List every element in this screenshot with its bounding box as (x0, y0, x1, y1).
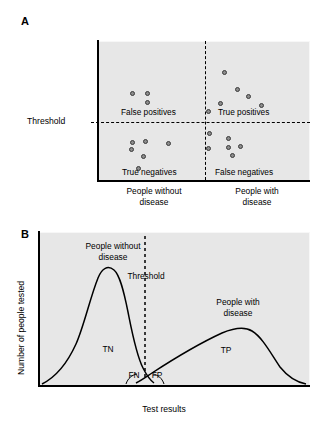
panel-a-x-axis-line (97, 180, 310, 182)
panel-b-y-axis-label: Number of people tested (16, 281, 26, 375)
scatter-dot (129, 147, 134, 152)
scatter-dot (166, 141, 171, 146)
panel-b-label-without-disease: People without disease (58, 241, 168, 262)
panel-b-threshold-label: Threshold (113, 271, 179, 282)
panel-b-plot-area: People without disease Threshold People … (40, 232, 310, 385)
scatter-dot (246, 94, 251, 99)
scatter-dot (206, 146, 211, 151)
scatter-dot (235, 87, 240, 92)
panel-b-letter: B (21, 228, 29, 240)
panel-b-x-axis-line (38, 385, 310, 387)
panel-b-region-tp: TP (216, 345, 236, 356)
scatter-dot (143, 139, 148, 144)
group-without-disease-line1: People without (127, 186, 182, 196)
group-without-disease-line2: disease (140, 197, 169, 207)
without-disease-line2: disease (99, 252, 128, 262)
group-with-disease-line1: People with (235, 186, 278, 196)
panel-a-threshold-label: Threshold (27, 116, 65, 126)
panel-a-threshold-line (91, 122, 310, 123)
panel-b-region-tn: TN (98, 344, 118, 355)
panel-a-y-axis-line (97, 40, 99, 181)
scatter-dot (141, 154, 146, 159)
scatter-dot (130, 91, 135, 96)
scatter-dot (206, 109, 211, 114)
quadrant-label-true-positives: True positives (218, 107, 269, 117)
scatter-dot (145, 91, 150, 96)
quadrant-label-false-negatives: False negatives (215, 167, 273, 177)
panel-a-group-label-without-disease: People without disease (106, 186, 202, 207)
quadrant-label-false-positives: False positives (121, 107, 176, 117)
with-disease-line1: People with (216, 297, 259, 307)
scatter-dot (230, 153, 235, 158)
scatter-dot (145, 100, 150, 105)
scatter-dot (130, 140, 135, 145)
figure-roc-threshold: A Test results Threshold (0, 0, 328, 426)
scatter-dot (238, 144, 243, 149)
scatter-dot (207, 131, 212, 136)
curve-without-disease (42, 268, 154, 384)
panel-a-letter: A (21, 15, 29, 27)
scatter-dot (218, 101, 223, 106)
panel-b-x-axis-label: Test results (0, 404, 328, 414)
panel-b-region-fp: FP (148, 370, 166, 381)
quadrant-label-true-negatives: True negatives (122, 167, 177, 177)
scatter-dot (222, 70, 227, 75)
panel-b-region-fn: FN (125, 370, 143, 381)
scatter-dot (226, 136, 231, 141)
with-disease-line2: disease (224, 308, 253, 318)
panel-a-group-label-with-disease: People with disease (212, 186, 302, 207)
scatter-dot (226, 145, 231, 150)
group-with-disease-line2: disease (243, 197, 272, 207)
panel-b-label-with-disease: People with disease (190, 297, 286, 318)
without-disease-line1: People without (86, 241, 141, 251)
panel-a-plot-area: False positives True positives True nega… (99, 41, 310, 180)
panel-a-plot-right-edge (309, 41, 310, 180)
